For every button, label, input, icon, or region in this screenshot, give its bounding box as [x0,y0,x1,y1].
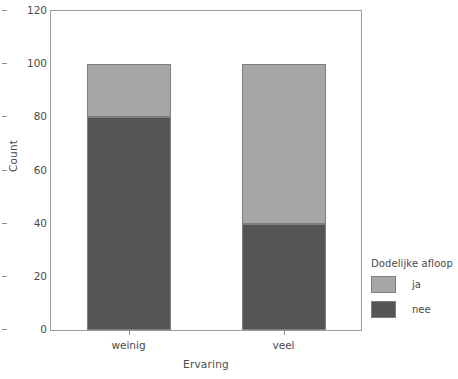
y-axis-tick-mark [2,276,7,277]
y-axis-tick-label: 80 [7,110,47,124]
legend: Dodelijke afloop janee [371,258,457,326]
y-axis-tick-label: 100 [7,57,47,71]
bar-segment-ja [87,64,171,117]
bar-group [242,11,326,330]
x-axis-tick-mark [284,330,285,335]
y-axis-tick-label: 120 [7,4,47,18]
legend-item[interactable]: ja [371,276,457,293]
y-axis-tick-mark [2,10,7,11]
legend-label: nee [412,304,431,315]
bar-segment-ja [242,64,326,224]
plot-inner: 020406080100120weinigveel [51,11,361,330]
y-axis-tick-label: 60 [7,164,47,178]
legend-swatch-ja [371,276,396,293]
x-axis-tick-label: weinig [69,339,189,351]
y-axis-tick-mark [2,329,7,330]
y-axis-tick-mark [2,170,7,171]
y-axis-tick-mark [2,116,7,117]
y-axis-tick-label: 20 [7,270,47,284]
legend-label: ja [412,279,421,290]
legend-entries: janee [371,276,457,318]
plot-area: 020406080100120weinigveel [50,10,362,331]
legend-title: Dodelijke afloop [371,258,457,269]
bar-segment-nee [242,224,326,330]
legend-swatch-nee [371,301,396,318]
stacked-bar-chart: Count 020406080100120weinigveel Ervaring… [0,0,458,379]
bar-segment-nee [87,117,171,330]
y-axis-tick-label: 0 [7,323,47,337]
x-axis-tick-mark [129,330,130,335]
y-axis-tick-mark [2,223,7,224]
y-axis-tick-label: 40 [7,217,47,231]
y-axis-title: Count [7,116,19,196]
x-axis-title: Ervaring [50,358,362,370]
legend-item[interactable]: nee [371,301,457,318]
bar-group [87,11,171,330]
x-axis-tick-label: veel [224,339,344,351]
y-axis-tick-mark [2,63,7,64]
